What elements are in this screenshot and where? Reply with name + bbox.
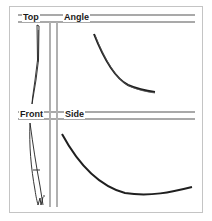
view-drawings bbox=[0, 0, 212, 221]
front-view-shape bbox=[30, 123, 45, 205]
side-view-shape bbox=[62, 134, 192, 194]
top-view-shape bbox=[32, 25, 39, 104]
angle-view-shape bbox=[94, 34, 155, 93]
